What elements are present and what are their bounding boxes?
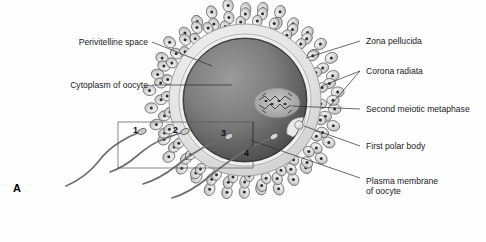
corona-radiata-cell-nucleus [168,128,171,131]
corona-radiata-cell-nucleus [194,37,197,40]
corona-radiata-cell-nucleus [292,178,295,181]
corona-radiata-cell-nucleus [315,135,318,138]
corona-radiata-cell-nucleus [195,26,198,29]
corona-radiata-cell-nucleus [273,22,276,25]
corona-radiata-cell-nucleus [150,107,153,110]
label-zona-pellucida: Zona pellucida [366,36,422,46]
corona-radiata-cell-nucleus [321,86,324,89]
label-sperm-1: 1 [133,125,138,135]
corona-radiata-cell-nucleus [208,188,211,191]
corona-radiata-cell-nucleus [166,95,169,98]
corona-radiata-cell-nucleus [170,61,173,64]
corona-radiata-cell-nucleus [227,4,230,7]
corona-radiata-cell-nucleus [265,177,268,180]
corona-radiata-cell-nucleus [148,89,151,92]
corona-radiata-cell-nucleus [226,191,229,194]
label-perivitelline-space: Perivitelline space [79,37,148,47]
corona-radiata-cell-nucleus [299,43,302,46]
corona-radiata-cell-nucleus [207,26,210,29]
corona-radiata-cell-nucleus [175,52,178,55]
corona-radiata-cell-nucleus [155,123,158,126]
label-sperm-4: 4 [244,148,249,158]
label-corona-radiata: Corona radiata [366,66,423,76]
first-polar-body [295,121,303,129]
second-meiotic-metaphase-spindle [254,88,300,118]
label-sperm-2: 2 [173,125,178,135]
corona-radiata-cell-nucleus [210,11,213,14]
corona-radiata-cell-nucleus [319,119,322,122]
corona-radiata-cell-nucleus [168,41,171,44]
corona-radiata-cell-nucleus [239,21,242,24]
corona-radiata-cell-nucleus [215,173,218,176]
corona-radiata-cell-nucleus [330,56,333,59]
corona-radiata-cell-nucleus [243,191,246,194]
corona-radiata-cell-nucleus [162,65,165,68]
corona-radiata-cell-nucleus [336,91,339,94]
corona-radiata-cell-nucleus [327,141,330,144]
corona-radiata-cell-nucleus [244,13,247,16]
corona-radiata-cell-nucleus [166,78,169,81]
corona-radiata-cell-nucleus [212,23,215,26]
corona-radiata-cell-nucleus [261,12,264,15]
label-plasma-membrane-of-oocyte-line1: Plasma membrane [366,176,438,186]
label-sperm-3: 3 [221,128,226,138]
label-plasma-membrane-of-oocyte-line2: of oocyte [366,186,401,196]
corona-radiata-cell-nucleus [321,67,324,70]
figure-panel-a: Perivitelline spaceCytoplasm of oocyte Z… [0,0,486,242]
corona-radiata-cell-nucleus [331,74,334,77]
label-cytoplasm-of-oocyte: Cytoplasm of oocyte [70,80,148,90]
corona-radiata-cell-nucleus [291,28,294,31]
corona-radiata-cell-nucleus [305,37,308,40]
corona-radiata-cell-nucleus [277,187,280,190]
corona-radiata-cell-nucleus [256,20,259,23]
corona-radiata-cell-nucleus [307,150,310,153]
corona-radiata-cell-nucleus [184,38,187,41]
corona-radiata-cell-nucleus [243,181,246,184]
corona-radiata-cell-nucleus [320,157,323,160]
corona-radiata-cell-nucleus [177,142,180,145]
corona-radiata-cell-nucleus [232,176,235,179]
corona-radiata-cell-nucleus [279,10,282,13]
corona-radiata-cell-nucleus [315,147,318,150]
corona-radiata-cell-nucleus [161,56,164,59]
corona-radiata-cell-nucleus [276,177,279,180]
corona-radiata-cell-nucleus [156,73,159,76]
corona-radiata-cell-nucleus [280,169,283,172]
corona-radiata-cell-nucleus [260,184,263,187]
label-second-meiotic-metaphase: Second meiotic metaphase [366,104,470,114]
oocyte-fertilization-diagram: Perivitelline spaceCytoplasm of oocyte Z… [0,0,486,242]
corona-radiata-cell-nucleus [159,81,162,84]
corona-radiata-cell-nucleus [319,42,322,45]
label-first-polar-body: First polar body [366,141,426,151]
corona-radiata-cell-nucleus [289,168,292,171]
corona-radiata-cell-nucleus [167,155,170,158]
corona-radiata-cell-nucleus [306,161,309,164]
corona-radiata-cell-nucleus [227,16,230,19]
panel-label: A [13,182,21,194]
corona-radiata-cell-nucleus [332,124,335,127]
